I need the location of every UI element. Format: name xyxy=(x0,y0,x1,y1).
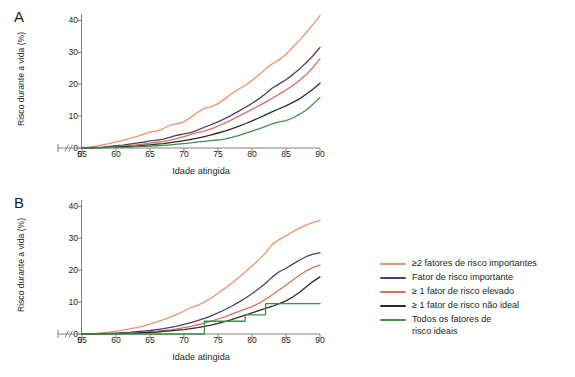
series-line xyxy=(82,83,320,148)
panel-b-x-ticks: 05560657075808590 xyxy=(60,336,335,350)
x-tick-label: 65 xyxy=(141,150,159,159)
axis-lines xyxy=(82,200,321,334)
legend-label: ≥ 1 fator de risco não ideal xyxy=(412,300,519,312)
y-tick-label: 20 xyxy=(52,266,78,275)
x-tick-label: 80 xyxy=(243,336,261,345)
x-tick-label: 55 xyxy=(73,336,91,345)
legend-item: Todos os fatores de risco ideais xyxy=(380,314,573,337)
panel-b-svg xyxy=(82,200,320,334)
y-tick-label: 30 xyxy=(52,234,78,243)
legend-color-swatch xyxy=(380,319,406,321)
x-tick-label: 90 xyxy=(311,336,329,345)
series-line xyxy=(82,98,320,148)
x-tick-label: 85 xyxy=(277,336,295,345)
x-tick-label: 75 xyxy=(209,150,227,159)
y-tick-label: 10 xyxy=(52,112,78,121)
legend-item: ≥ 1 fator de risco não ideal xyxy=(380,300,573,313)
y-tick-label: 40 xyxy=(52,202,78,211)
series-line xyxy=(82,221,320,334)
legend-item: Fator de risco importante xyxy=(380,272,573,285)
series-line xyxy=(82,265,320,334)
legend-item: ≥ 1 fator de risco elevado xyxy=(380,286,573,299)
legend: ≥2 fatores de risco importantesFator de … xyxy=(380,258,573,338)
series-line xyxy=(82,59,320,148)
series-line xyxy=(82,48,320,149)
panel-a: A Risco durante a vida (%) 010203040 055… xyxy=(0,0,352,188)
panel-b: B Risco durante a vida (%) 010203040 055… xyxy=(0,186,352,374)
legend-item: ≥2 fatores de risco importantes xyxy=(380,258,573,271)
y-tick-label: 10 xyxy=(52,298,78,307)
figure-lifetime-risk: A Risco durante a vida (%) 010203040 055… xyxy=(0,0,575,377)
legend-color-swatch xyxy=(380,263,406,265)
panel-b-y-axis-label: Risco durante a vida (%) xyxy=(16,200,26,330)
legend-label: ≥ 1 fator de risco elevado xyxy=(412,286,514,298)
x-tick-label: 85 xyxy=(277,150,295,159)
series-line xyxy=(82,16,320,148)
x-tick-label: 65 xyxy=(141,336,159,345)
legend-label: Todos os fatores de risco ideais xyxy=(412,314,491,337)
series-line xyxy=(82,253,320,334)
x-tick-label: 70 xyxy=(175,150,193,159)
x-tick-label: 70 xyxy=(175,336,193,345)
x-tick-label: 75 xyxy=(209,336,227,345)
x-tick-label: 55 xyxy=(73,150,91,159)
legend-color-swatch xyxy=(380,305,406,307)
legend-label: Fator de risco importante xyxy=(412,272,513,284)
y-tick-label: 20 xyxy=(52,80,78,89)
x-tick-label: 60 xyxy=(107,150,125,159)
panel-a-plot-area xyxy=(82,14,320,148)
panel-a-y-ticks: 010203040 xyxy=(48,14,78,148)
y-tick-label: 30 xyxy=(52,48,78,57)
x-tick-label: 60 xyxy=(107,336,125,345)
legend-color-swatch xyxy=(380,291,406,293)
series-line xyxy=(82,277,320,334)
panel-b-x-axis-label: Idade atingida xyxy=(82,352,320,362)
y-tick-label: 40 xyxy=(52,16,78,25)
x-tick-label: 90 xyxy=(311,150,329,159)
x-tick-label: 80 xyxy=(243,150,261,159)
panel-a-x-axis-label: Idade atingida xyxy=(82,166,320,176)
legend-label: ≥2 fatores de risco importantes xyxy=(412,258,537,270)
panel-b-plot-area xyxy=(82,200,320,334)
legend-color-swatch xyxy=(380,277,406,279)
panel-b-y-ticks: 010203040 xyxy=(48,200,78,334)
panel-a-y-axis-label: Risco durante a vida (%) xyxy=(16,14,26,144)
panel-a-x-ticks: 05560657075808590 xyxy=(60,150,335,164)
panel-a-svg xyxy=(82,14,320,148)
